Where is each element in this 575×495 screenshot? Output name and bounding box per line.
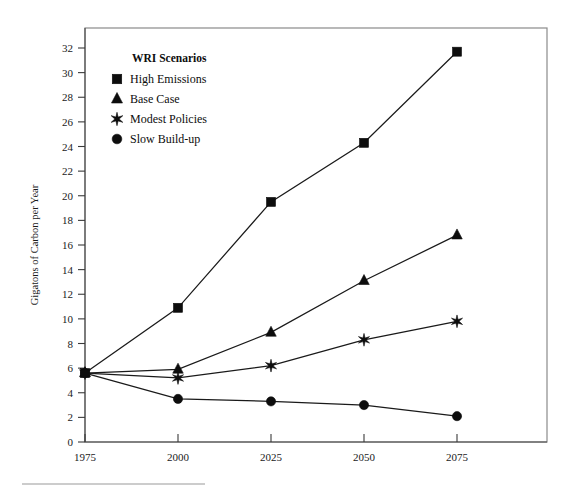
line-chart: 02468101214161820222426283032 1975200020… bbox=[0, 0, 575, 495]
y-axis-title: Gigatons of Carbon per Year bbox=[29, 184, 40, 305]
y-tick-label: 22 bbox=[62, 165, 73, 177]
y-tick-label: 2 bbox=[68, 411, 74, 423]
x-tick-label: 1975 bbox=[74, 451, 97, 463]
y-tick-label: 0 bbox=[68, 436, 74, 448]
marker-square bbox=[112, 74, 121, 83]
chart-container: 02468101214161820222426283032 1975200020… bbox=[0, 0, 575, 495]
y-tick-label: 26 bbox=[62, 116, 74, 128]
y-tick-label: 16 bbox=[62, 239, 74, 251]
marker-circle bbox=[266, 397, 275, 406]
y-tick-label: 24 bbox=[62, 141, 74, 153]
y-tick-label: 20 bbox=[62, 190, 74, 202]
legend-title: WRI Scenarios bbox=[132, 52, 207, 64]
marker-circle bbox=[173, 394, 182, 403]
legend-item-label: Base Case bbox=[130, 92, 180, 106]
marker-square bbox=[267, 197, 276, 206]
y-tick-label: 28 bbox=[62, 91, 74, 103]
y-tick-label: 4 bbox=[68, 387, 74, 399]
marker-square bbox=[174, 303, 183, 312]
chart-background bbox=[0, 0, 575, 495]
marker-square bbox=[453, 47, 462, 56]
marker-circle bbox=[112, 134, 122, 144]
y-tick-label: 14 bbox=[62, 264, 74, 276]
x-tick-label: 2025 bbox=[260, 451, 283, 463]
y-tick-label: 10 bbox=[62, 313, 74, 325]
legend-item-label: High Emissions bbox=[130, 72, 207, 86]
x-tick-label: 2050 bbox=[353, 451, 376, 463]
y-tick-label: 30 bbox=[62, 67, 74, 79]
marker-circle bbox=[452, 412, 461, 421]
marker-circle bbox=[359, 400, 368, 409]
x-tick-label: 2075 bbox=[446, 451, 469, 463]
y-tick-label: 18 bbox=[62, 214, 74, 226]
y-tick-label: 32 bbox=[62, 42, 73, 54]
y-tick-label: 6 bbox=[68, 362, 74, 374]
y-tick-label: 12 bbox=[62, 288, 73, 300]
y-tick-label: 8 bbox=[68, 338, 74, 350]
marker-circle bbox=[80, 368, 89, 377]
x-tick-label: 2000 bbox=[167, 451, 190, 463]
marker-square bbox=[360, 138, 369, 147]
legend-item-label: Slow Build-up bbox=[130, 132, 200, 146]
legend-item-label: Modest Policies bbox=[130, 112, 207, 126]
